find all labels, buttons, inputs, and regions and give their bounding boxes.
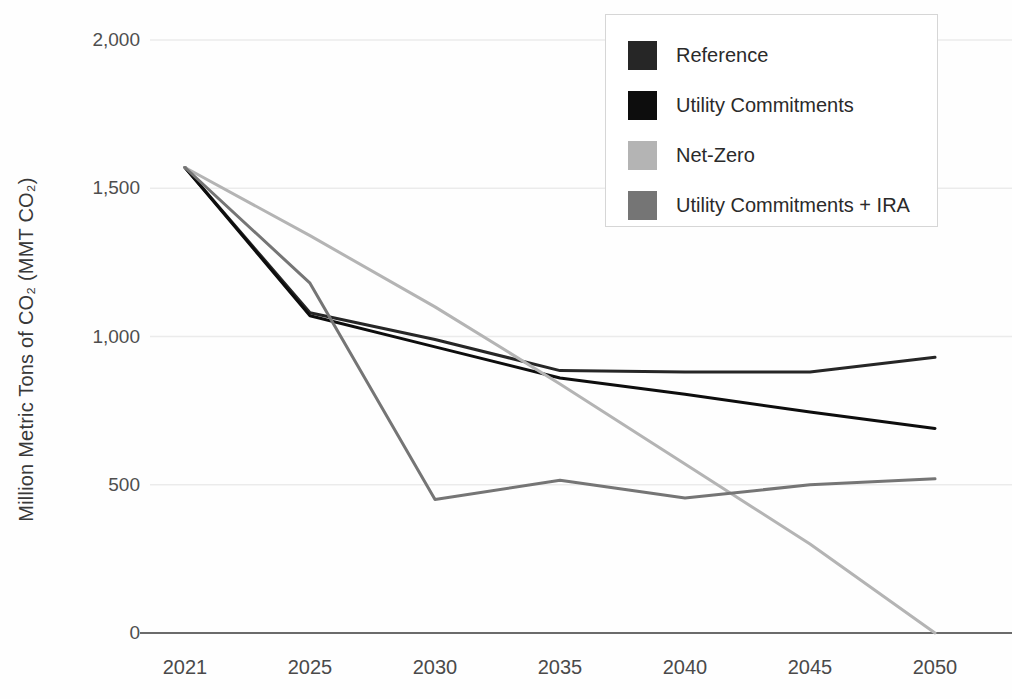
x-tick-label: 2035	[515, 655, 605, 679]
y-tick-label: 1,000	[0, 325, 140, 349]
legend-swatch-icon	[628, 191, 657, 220]
y-tick-label: 1,500	[0, 176, 140, 200]
legend-item: Net-Zero	[628, 130, 937, 180]
legend-item: Reference	[628, 30, 937, 80]
legend-swatch-icon	[628, 141, 657, 170]
legend-item: Utility Commitments + IRA	[628, 180, 937, 230]
legend-label: Utility Commitments + IRA	[676, 194, 910, 217]
y-tick-label: 2,000	[0, 28, 140, 52]
x-tick-label: 2040	[640, 655, 730, 679]
x-tick-label: 2050	[890, 655, 980, 679]
legend-swatch-icon	[628, 91, 657, 120]
x-tick-label: 2021	[140, 655, 230, 679]
x-tick-label: 2030	[390, 655, 480, 679]
legend-item: Utility Commitments	[628, 80, 937, 130]
legend-label: Net-Zero	[676, 144, 755, 167]
legend: ReferenceUtility CommitmentsNet-ZeroUtil…	[605, 14, 938, 227]
y-tick-label: 500	[0, 473, 140, 497]
series-line-net-zero	[185, 167, 935, 633]
legend-label: Reference	[676, 44, 768, 67]
emissions-scenarios-chart: Million Metric Tons of CO₂ (MMT CO₂) 050…	[0, 0, 1012, 699]
x-tick-label: 2045	[765, 655, 855, 679]
legend-label: Utility Commitments	[676, 94, 854, 117]
y-tick-label: 0	[0, 621, 140, 645]
x-tick-label: 2025	[265, 655, 355, 679]
legend-swatch-icon	[628, 41, 657, 70]
